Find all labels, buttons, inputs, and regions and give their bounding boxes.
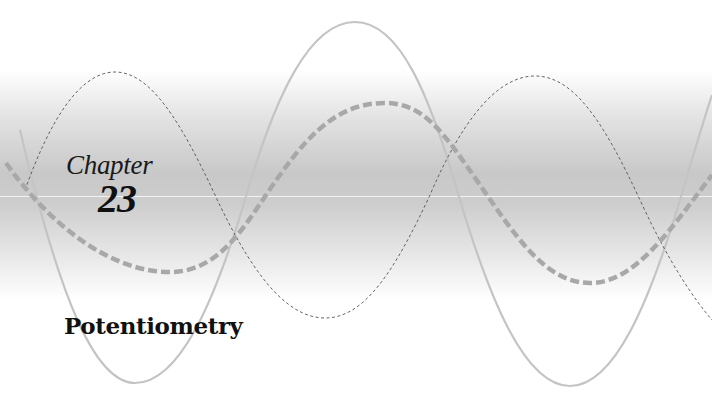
- chapter-title-page: Chapter 23 Potentiometry: [0, 0, 712, 407]
- chapter-title: Potentiometry: [64, 312, 243, 339]
- chapter-number: 23: [98, 175, 136, 222]
